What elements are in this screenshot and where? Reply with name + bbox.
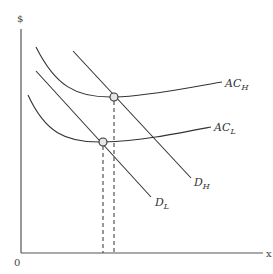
origin-label: 0 <box>14 257 20 268</box>
x-axis-label: x <box>266 248 272 259</box>
d-h-line <box>73 51 191 178</box>
y-axis-label: $ <box>17 13 23 24</box>
ac-h-curve <box>36 47 222 97</box>
d-h-label: DH <box>193 176 211 191</box>
d-l-line <box>36 71 151 197</box>
eq-h-point <box>110 93 118 101</box>
ac-h-label: ACH <box>224 77 249 92</box>
ac-l-label: ACL <box>213 121 236 136</box>
d-l-label: DL <box>154 196 169 211</box>
cost-demand-diagram: $ 0 x ACH ACL DH DL <box>0 0 273 274</box>
eq-l-point <box>99 138 107 146</box>
ac-l-curve <box>28 95 211 142</box>
